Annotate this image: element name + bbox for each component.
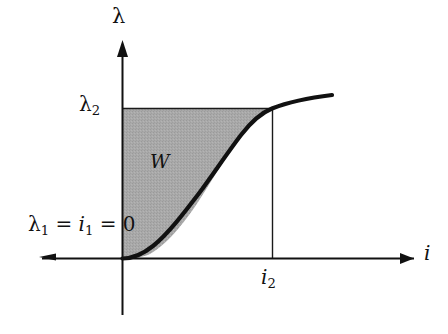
equals-sign-1: = (49, 212, 78, 236)
y-axis-tick-label-lambda2: λ2 (79, 94, 100, 117)
equals-zero: = 0 (93, 212, 135, 236)
origin-condition-label: λ1 = i1 = 0 (28, 214, 136, 237)
lambda1-symbol: λ (28, 212, 41, 236)
lambda-subscript: 2 (92, 103, 100, 118)
flux-linkage-current-energy-diagram: λ i λ2 i2 W λ1 = i1 = 0 (0, 0, 448, 334)
x-axis-tick-label-i2: i2 (261, 267, 276, 290)
x-axis-label: i (424, 243, 430, 263)
x-axis-arrowhead-right (400, 253, 414, 264)
shaded-energy-region-W (123, 109, 273, 259)
lambda-symbol: λ (79, 92, 92, 116)
lambda1-subscript: 1 (41, 223, 49, 238)
i-subscript: 2 (267, 276, 275, 291)
diagram-canvas (0, 0, 448, 334)
y-axis-arrowhead-top (117, 40, 128, 57)
energy-region-label: W (150, 152, 170, 171)
y-axis-label: λ (112, 6, 125, 27)
